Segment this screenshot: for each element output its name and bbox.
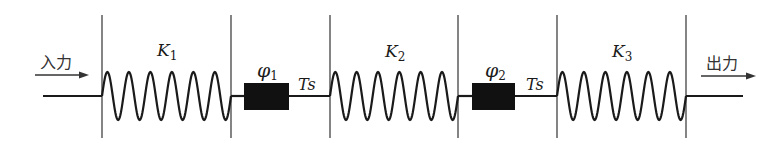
k2-label: K2 xyxy=(384,41,405,64)
ts1-label: Ts xyxy=(298,75,316,94)
section-boundaries xyxy=(102,15,686,138)
input-arrow xyxy=(35,72,89,79)
spring-chain-diagram: 入力 出力 K1 K2 K3 φ1 φ2 Ts Ts xyxy=(0,0,780,147)
phi2-block xyxy=(472,83,515,110)
phi1-label: φ1 xyxy=(257,59,278,83)
k3-label: K3 xyxy=(611,41,632,64)
ts2-label: Ts xyxy=(526,75,544,94)
phi2-label: φ2 xyxy=(485,59,506,83)
spring-k1 xyxy=(102,72,231,120)
input-label: 入力 xyxy=(40,53,72,72)
output-arrow xyxy=(701,73,756,80)
output-label: 出力 xyxy=(706,54,738,73)
spring-k3 xyxy=(557,72,686,120)
spring-k2 xyxy=(330,72,458,120)
k1-label: K1 xyxy=(156,40,177,63)
phi1-block xyxy=(244,83,289,110)
